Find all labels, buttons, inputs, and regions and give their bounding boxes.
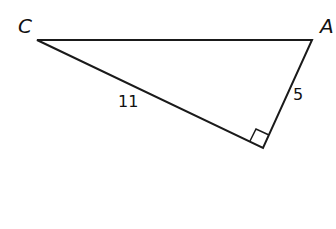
side-length-cb: 11 bbox=[118, 92, 138, 111]
diagram-canvas: C A 11 5 bbox=[0, 0, 336, 229]
side-length-ab: 5 bbox=[293, 85, 303, 104]
triangle-figure bbox=[0, 0, 336, 229]
triangle bbox=[37, 40, 312, 148]
vertex-label-a: A bbox=[320, 14, 334, 38]
vertex-label-c: C bbox=[18, 14, 32, 38]
